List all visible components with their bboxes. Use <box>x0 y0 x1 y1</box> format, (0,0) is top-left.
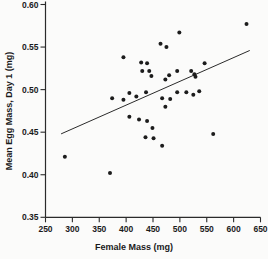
data-point <box>108 171 112 175</box>
y-tick-label: 0.55 <box>22 42 39 52</box>
data-point <box>163 105 167 109</box>
x-tick-label: 450 <box>146 224 160 234</box>
data-point <box>110 96 114 100</box>
data-point <box>143 135 147 139</box>
data-point <box>245 22 249 26</box>
data-point <box>134 94 138 98</box>
y-tick-label: 0.50 <box>22 85 39 95</box>
data-point <box>121 98 125 102</box>
data-point <box>203 61 207 65</box>
data-point <box>211 132 215 136</box>
data-point <box>150 126 154 130</box>
y-tick-label: 0.40 <box>22 170 39 180</box>
data-point <box>164 45 168 49</box>
data-point <box>137 117 141 121</box>
y-tick-label: 0.60 <box>22 0 39 10</box>
data-point <box>191 93 195 97</box>
x-tick-label: 400 <box>119 224 133 234</box>
data-point <box>139 60 143 64</box>
scatter-plot-figure: 0.350.400.450.500.550.602503003504004505… <box>0 0 268 259</box>
x-tick-label: 350 <box>92 224 106 234</box>
data-point <box>167 73 171 77</box>
data-point <box>168 97 172 101</box>
data-point <box>184 90 188 94</box>
y-tick-label: 0.45 <box>22 127 39 137</box>
data-point <box>175 90 179 94</box>
data-point <box>189 69 193 73</box>
data-point <box>127 115 131 119</box>
x-tick-label: 250 <box>38 224 52 234</box>
y-axis-title: Mean Egg Mass, Day 1 (mg) <box>4 26 14 196</box>
trend-line <box>61 50 250 133</box>
data-point <box>175 69 179 73</box>
x-tick-label: 650 <box>253 224 267 234</box>
data-point <box>145 61 149 65</box>
data-point <box>163 77 167 81</box>
data-point <box>121 55 125 59</box>
x-tick-label: 550 <box>200 224 214 234</box>
data-point <box>149 74 153 78</box>
data-point <box>140 69 144 73</box>
chart-canvas: 0.350.400.450.500.550.602503003504004505… <box>0 0 268 259</box>
x-tick-label: 600 <box>227 224 241 234</box>
data-point <box>144 90 148 94</box>
data-point <box>193 75 197 79</box>
data-point <box>177 31 181 35</box>
data-point <box>127 91 131 95</box>
data-point <box>145 119 149 123</box>
data-point <box>160 96 164 100</box>
data-point <box>152 136 156 140</box>
x-axis-title: Female Mass (mg) <box>0 242 268 252</box>
data-point <box>63 155 67 159</box>
x-tick-label: 500 <box>173 224 187 234</box>
data-point <box>160 144 164 148</box>
y-tick-label: 0.35 <box>22 212 39 222</box>
data-point <box>147 69 151 73</box>
data-point <box>197 89 201 93</box>
x-tick-label: 300 <box>65 224 79 234</box>
data-point <box>159 42 163 46</box>
